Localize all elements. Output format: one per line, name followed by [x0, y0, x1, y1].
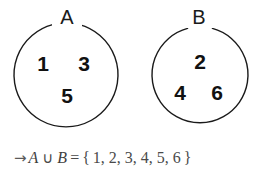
set-b-element: 2 [188, 50, 212, 74]
arrow-icon: → [14, 148, 27, 168]
set-a-element: 1 [31, 52, 55, 76]
set-a-label: A [52, 7, 82, 28]
set-b-label: B [184, 7, 214, 28]
venn-diagram: A 1 3 5 B 2 4 6 → A ∪ B = { 1, 2, 3, 4, … [0, 0, 262, 184]
equals-sign: = [67, 148, 82, 168]
set-a-element: 5 [55, 84, 79, 108]
open-brace: { [82, 148, 90, 168]
set-a-group: A 1 3 5 [0, 0, 131, 140]
union-operator-icon: ∪ [38, 148, 57, 168]
union-result-equation: → A ∪ B = { 1, 2, 3, 4, 5, 6 } [14, 148, 192, 168]
set-b-group: B 2 4 6 [131, 0, 262, 140]
close-brace: } [184, 148, 192, 168]
equation-operand-a: A [29, 148, 39, 168]
equation-operand-b: B [57, 148, 67, 168]
set-b-element: 4 [168, 81, 192, 105]
union-set-members: 1, 2, 3, 4, 5, 6 [90, 148, 184, 168]
set-a-element: 3 [72, 52, 96, 76]
set-b-element: 6 [205, 81, 229, 105]
